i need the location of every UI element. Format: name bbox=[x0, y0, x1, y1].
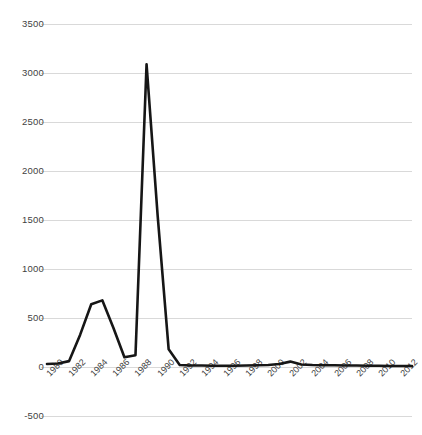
line-chart: 3500300025002000150010005000-500 1980198… bbox=[0, 0, 422, 435]
plot-area bbox=[0, 0, 422, 435]
data-series-line bbox=[47, 64, 412, 366]
